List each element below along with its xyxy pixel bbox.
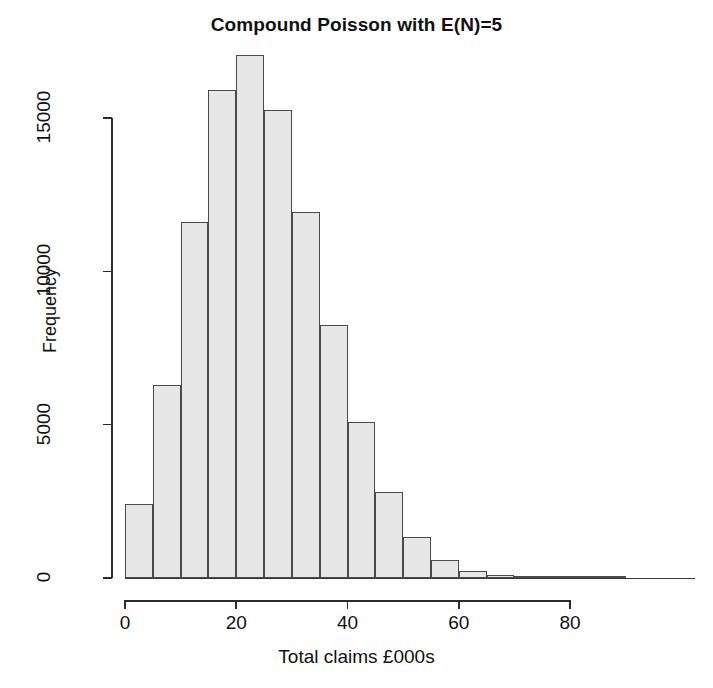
x-axis-tick	[124, 600, 126, 609]
histogram-bar	[153, 385, 181, 578]
x-axis-tick	[569, 600, 571, 609]
y-axis-line	[111, 118, 113, 578]
histogram-bar	[208, 90, 236, 578]
x-axis-tick	[458, 600, 460, 609]
chart-title: Compound Poisson with E(N)=5	[0, 14, 713, 36]
histogram-bar	[375, 492, 403, 578]
plot-baseline	[125, 578, 695, 579]
plot-area	[125, 48, 695, 578]
histogram-bar	[236, 55, 264, 578]
histogram-bar	[431, 560, 459, 578]
histogram-figure: Compound Poisson with E(N)=5 05000100001…	[0, 0, 713, 688]
x-axis-tick-label: 0	[95, 612, 155, 634]
x-axis-tick-label: 80	[540, 612, 600, 634]
histogram-bar	[570, 576, 598, 578]
x-axis-tick-label: 40	[318, 612, 378, 634]
y-axis-title: Frequency	[40, 231, 61, 391]
histogram-bar	[348, 422, 376, 578]
histogram-bar	[459, 571, 487, 578]
y-axis-tick	[103, 424, 112, 426]
histogram-bar	[292, 212, 320, 578]
x-axis-tick-label: 20	[206, 612, 266, 634]
histogram-bar	[598, 576, 626, 578]
histogram-bar	[514, 576, 542, 578]
histogram-bar	[542, 576, 570, 578]
y-axis-tick	[103, 117, 112, 119]
histogram-bar	[181, 222, 209, 578]
histogram-bar	[320, 325, 348, 578]
x-axis-tick-label: 60	[429, 612, 489, 634]
x-axis-tick	[347, 600, 349, 609]
histogram-bar	[125, 504, 153, 578]
y-axis-tick-label: 0	[33, 522, 55, 632]
histogram-bar	[264, 110, 292, 578]
y-axis-tick-label: 15000	[33, 62, 55, 172]
histogram-bar	[487, 575, 515, 578]
y-axis-tick	[103, 271, 112, 273]
x-axis-title: Total claims £000s	[0, 646, 713, 668]
x-axis-tick	[235, 600, 237, 609]
histogram-bar	[403, 537, 431, 578]
y-axis-tick	[103, 577, 112, 579]
